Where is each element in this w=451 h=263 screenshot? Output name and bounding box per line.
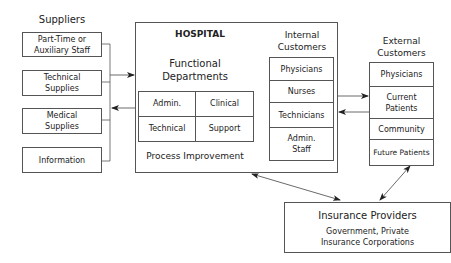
external-customer-label: Physicians [381,69,423,80]
internal-customers-title-line2: Customers [272,41,332,53]
external-customers-title: External Customers [369,35,434,59]
external-customer-label: Current [385,92,417,103]
internal-customer-technicians: Technicians [270,103,333,128]
internal-customer-label: Admin. [287,133,315,144]
dept-clinical: Clinical [196,92,253,117]
functional-departments-title: Functional Departments [145,57,245,83]
arrow-external-insurance [380,166,410,200]
functional-departments-grid: Admin. Clinical Technical Support [138,91,254,142]
insurance-providers-title: Insurance Providers [284,209,451,222]
external-customer-future-patients: Future Patients [370,140,433,165]
internal-customer-label: Physicians [281,64,323,75]
suppliers-title: Suppliers [22,13,102,26]
external-customers-list: Physicians CurrentPatients Community Fut… [369,62,434,166]
internal-customers-title: Internal Customers [272,29,332,53]
external-customer-current-patients: CurrentPatients [370,87,433,119]
supplier-information: Information [22,147,102,173]
external-customer-label: Community [378,124,424,135]
internal-customer-nurses: Nurses [270,81,333,103]
external-customers-title-line2: Customers [369,47,434,59]
supplier-label: Auxiliary Staff [34,45,90,56]
internal-customer-label: Staff [287,144,315,155]
external-customer-label: Patients [385,103,417,114]
internal-customers-list: Physicians Nurses Technicians Admin.Staf… [269,57,334,161]
supplier-label: Information [39,155,85,166]
dept-admin: Admin. [139,92,196,117]
external-customers-title-line1: External [369,35,434,47]
supplier-label: Supplies [44,83,81,94]
supplier-part-time-staff: Part-Time orAuxiliary Staff [22,32,102,57]
internal-customer-label: Technicians [279,110,325,121]
supplier-technical-supplies: TechnicalSupplies [22,70,102,96]
functional-departments-title-line1: Functional [145,57,245,70]
process-improvement-label: Process Improvement [140,150,250,162]
hospital-title: HOSPITAL [160,28,240,40]
internal-customer-admin-staff: Admin.Staff [270,128,333,160]
external-customer-physicians: Physicians [370,63,433,87]
supplier-label: Technical [44,72,81,83]
functional-departments-title-line2: Departments [145,70,245,83]
external-customer-community: Community [370,119,433,140]
supplier-label: Supplies [45,121,79,132]
supplier-label: Part-Time or [34,34,90,45]
insurance-providers-subtitle: Government, Private Insurance Corporatio… [284,226,451,248]
arrow-hospital-insurance [252,174,340,200]
supplier-medical-supplies: MedicalSupplies [22,108,102,134]
internal-customer-physicians: Physicians [270,58,333,81]
internal-customers-title-line1: Internal [272,29,332,41]
insurance-subtitle-line1: Government, Private [284,226,451,237]
dept-support: Support [196,117,253,142]
insurance-subtitle-line2: Insurance Corporations [284,237,451,248]
dept-technical: Technical [139,117,196,142]
internal-customer-label: Nurses [288,86,316,97]
external-customer-label: Future Patients [373,147,429,158]
supplier-label: Medical [45,110,79,121]
